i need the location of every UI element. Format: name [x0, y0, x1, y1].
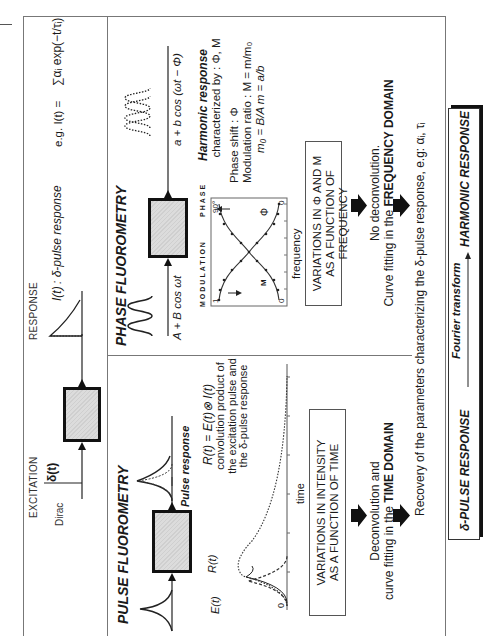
- recovery-text: Recovery of the parameters characterizin…: [414, 122, 427, 516]
- harmonic-response-term: HARMONIC RESPONSE: [459, 111, 472, 247]
- fourier-transform-label: Fourier transform: [450, 263, 462, 360]
- delta-pulse-term: δ-PULSE RESPONSE: [459, 410, 472, 531]
- phase-analysis: No deconvolution. Curve fitting in the F…: [368, 68, 396, 318]
- frame-bottom-border: [445, 16, 446, 636]
- phase-analysis-line2: Curve fitting in the FREQUENCY DOMAIN: [382, 68, 396, 318]
- transform-box: δ-PULSE RESPONSE Fourier transform HARMO…: [448, 108, 480, 540]
- fluorometry-diagram: EXCITATION Dirac δ(t) RESPONSE I(t) : δ-…: [0, 0, 501, 636]
- phase-analysis-line1: No deconvolution.: [368, 68, 382, 318]
- transform-arrow: [463, 247, 473, 387]
